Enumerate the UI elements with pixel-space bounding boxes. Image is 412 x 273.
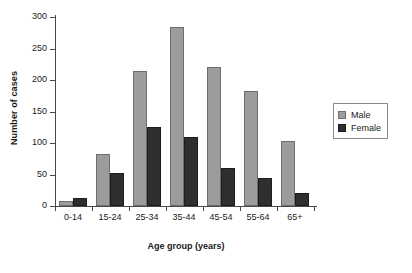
bar-female-15-24 <box>110 173 124 206</box>
y-tick-label-50: 50 <box>37 169 47 179</box>
bar-female-25-34 <box>147 127 161 206</box>
y-tick-300: 300 <box>50 17 55 18</box>
bar-female-35-44 <box>184 137 198 206</box>
bar-male-35-44 <box>170 27 184 206</box>
chart-legend: Male Female <box>333 103 388 139</box>
bar-female-65plus <box>295 193 309 206</box>
legend-swatch-female-icon <box>338 124 346 132</box>
bar-male-55-64 <box>244 91 258 206</box>
y-tick-label-300: 300 <box>32 11 47 21</box>
x-tick-1 <box>92 207 93 211</box>
bar-chart-figure: Number of cases 0 50 100 150 200 250 300 <box>0 0 412 273</box>
x-tick-0 <box>55 207 56 211</box>
y-tick-label-0: 0 <box>42 200 47 210</box>
x-tick-7 <box>314 207 315 211</box>
y-tick-150: 150 <box>50 112 55 113</box>
bar-female-55-64 <box>258 178 272 206</box>
y-tick-label-150: 150 <box>32 106 47 116</box>
bar-female-45-54 <box>221 168 235 206</box>
x-tick-2 <box>129 207 130 211</box>
x-label-65plus: 65+ <box>271 212 319 222</box>
bar-female-0-14 <box>73 198 87 206</box>
bar-male-15-24 <box>96 154 110 206</box>
legend-item-female: Female <box>338 121 381 134</box>
bar-male-65plus <box>281 141 295 206</box>
y-tick-200: 200 <box>50 80 55 81</box>
y-axis-title-text: Number of cases <box>9 70 19 144</box>
bar-male-45-54 <box>207 67 221 206</box>
y-axis-title: Number of cases <box>2 0 26 215</box>
legend-label-female: Female <box>351 123 381 133</box>
y-tick-label-100: 100 <box>32 137 47 147</box>
y-tick-100: 100 <box>50 143 55 144</box>
legend-swatch-male-icon <box>338 111 346 119</box>
plot-area: 0 50 100 150 200 250 300 <box>55 18 315 207</box>
y-tick-50: 50 <box>50 175 55 176</box>
bar-male-0-14 <box>59 201 73 206</box>
y-axis-line <box>55 15 56 208</box>
bar-male-25-34 <box>133 71 147 206</box>
legend-item-male: Male <box>338 108 381 121</box>
x-tick-3 <box>166 207 167 211</box>
x-axis-title: Age group (years) <box>55 241 317 251</box>
y-tick-250: 250 <box>50 49 55 50</box>
y-tick-label-200: 200 <box>32 74 47 84</box>
x-tick-6 <box>277 207 278 211</box>
x-tick-5 <box>240 207 241 211</box>
x-tick-4 <box>203 207 204 211</box>
y-tick-label-250: 250 <box>32 43 47 53</box>
legend-label-male: Male <box>351 110 371 120</box>
